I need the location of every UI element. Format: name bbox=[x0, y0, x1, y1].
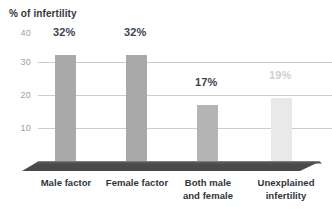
value-label-unexplained-infertility: 19% bbox=[269, 69, 291, 81]
platform-base bbox=[0, 148, 332, 172]
category-label-unexplained-infertility: Unexplained infertility bbox=[246, 177, 326, 202]
bar-chart: % of infertility 40 30 20 10 32% 32% 17%… bbox=[0, 0, 332, 212]
category-label-female-factor: Female factor bbox=[96, 177, 178, 190]
category-label-line: Both male bbox=[172, 177, 244, 190]
y-axis-tick-30: 30 bbox=[9, 57, 31, 67]
gridline-20 bbox=[38, 95, 332, 96]
value-label-male-factor: 32% bbox=[53, 26, 75, 38]
value-label-both-male-and-female: 17% bbox=[195, 76, 217, 88]
y-axis-tick-20: 20 bbox=[9, 90, 31, 100]
category-label-both-male-and-female: Both male and female bbox=[172, 177, 244, 202]
value-label-female-factor: 32% bbox=[124, 26, 146, 38]
y-axis-tick-10: 10 bbox=[9, 123, 31, 133]
category-label-line: Female factor bbox=[96, 177, 178, 190]
bar-female-factor bbox=[126, 55, 147, 161]
category-label-male-factor: Male factor bbox=[26, 177, 106, 190]
y-axis-tick-40: 40 bbox=[9, 28, 31, 38]
gridline-30 bbox=[38, 62, 332, 63]
category-label-line: Male factor bbox=[26, 177, 106, 190]
category-label-line: Unexplained bbox=[246, 177, 326, 190]
bar-male-factor bbox=[55, 55, 76, 161]
category-label-line: and female bbox=[172, 190, 244, 203]
category-label-line: infertility bbox=[246, 190, 326, 203]
